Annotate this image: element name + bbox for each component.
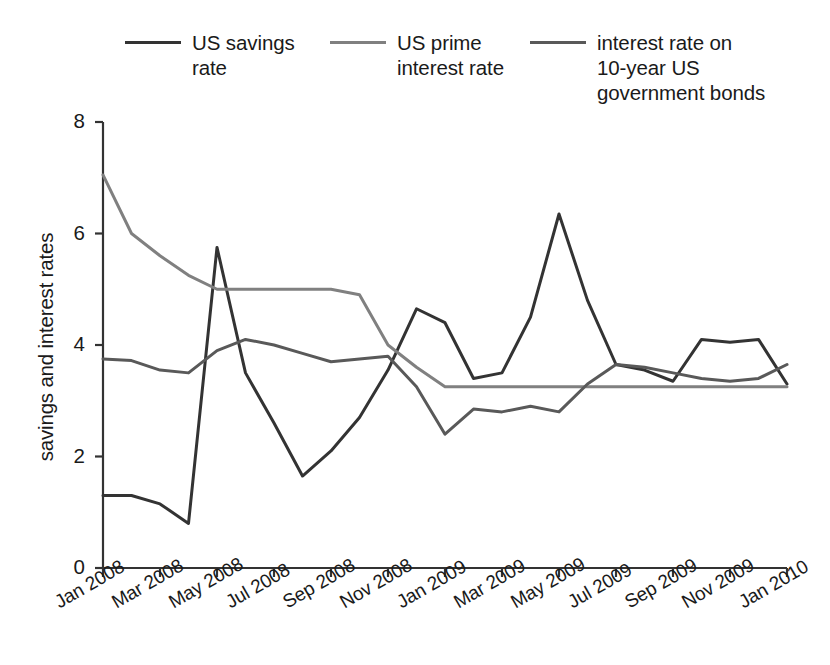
y-tick-label-0: 0 [51, 555, 85, 579]
chart-page: US savings rateUS prime interest rateint… [0, 0, 830, 665]
y-tick-label-4: 8 [51, 109, 85, 133]
series-line-0 [103, 214, 787, 523]
chart-svg [0, 0, 830, 665]
plot-area: savings and interest rates 02468 Jan 200… [0, 0, 830, 665]
y-tick-label-3: 6 [51, 221, 85, 245]
y-tick-label-2: 4 [51, 332, 85, 356]
y-tick-label-1: 2 [51, 444, 85, 468]
